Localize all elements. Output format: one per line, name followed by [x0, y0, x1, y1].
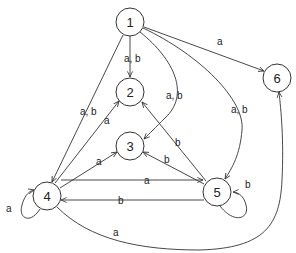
node-5-label: 5	[213, 185, 220, 200]
edge-5-2	[142, 102, 206, 181]
label-1-5: a, b	[231, 104, 248, 115]
label-1-3: a, b	[166, 90, 183, 101]
node-1: 1	[116, 8, 144, 36]
edges	[21, 27, 282, 250]
edge-5-3	[143, 152, 204, 184]
edge-1-6	[144, 27, 264, 71]
node-3: 3	[116, 132, 144, 160]
label-1-6: a	[217, 36, 223, 47]
node-2: 2	[116, 78, 144, 106]
node-2-label: 2	[126, 85, 133, 100]
label-4-6: a	[113, 227, 119, 238]
node-4: 4	[33, 182, 61, 210]
label-4-2: a	[104, 115, 110, 126]
edge-1-5	[143, 28, 242, 179]
label-4-3: a	[96, 156, 102, 167]
label-1-2: a, b	[124, 53, 141, 64]
label-1-4: a, b	[80, 106, 97, 117]
label-5-3: b	[164, 154, 170, 165]
node-1-label: 1	[126, 15, 133, 30]
label-4-5: a	[144, 175, 150, 186]
label-5-4: b	[118, 195, 124, 206]
node-6: 6	[263, 64, 291, 92]
node-4-label: 4	[43, 189, 50, 204]
node-3-label: 3	[126, 139, 133, 154]
edge-4-3	[60, 152, 117, 188]
state-diagram: a, b a, b a, b a, b a a a a b b b a b a …	[0, 0, 296, 253]
node-6-label: 6	[273, 71, 280, 86]
label-4-4: a	[6, 203, 12, 214]
label-5-5: b	[245, 179, 251, 190]
label-5-2: b	[175, 137, 181, 148]
node-5: 5	[203, 178, 231, 206]
